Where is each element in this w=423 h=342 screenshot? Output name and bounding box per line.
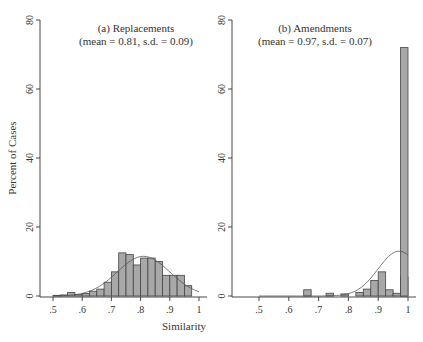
y-tick-label: 60 <box>216 84 227 94</box>
histogram-bar <box>371 280 378 296</box>
panel-a-title: (a) Replacements <box>98 22 175 35</box>
histogram-bar <box>163 275 170 296</box>
x-tick-label: .9 <box>374 304 382 315</box>
panel-b-stats: (mean = 0.97, s.d. = 0.07) <box>258 35 372 48</box>
histogram-bar <box>155 262 162 297</box>
y-tick-label: 20 <box>24 222 35 232</box>
histogram-bar <box>97 289 104 296</box>
histogram-bar <box>119 253 126 296</box>
x-tick-label: .5 <box>49 304 57 315</box>
y-tick-label: 40 <box>216 153 227 163</box>
histogram-bar <box>133 265 140 296</box>
y-tick-label: 60 <box>24 84 35 94</box>
histogram-bar <box>177 275 184 296</box>
panel-b-axes: 020406080.5.6.7.8.91 <box>216 15 416 315</box>
histogram-bar <box>104 282 111 296</box>
panel-a-axes: 020406080.5.6.7.8.91 <box>24 15 207 315</box>
panel-b-title: (b) Amendments <box>278 22 352 35</box>
histogram-bar <box>141 258 148 296</box>
y-tick-label: 0 <box>24 294 35 299</box>
y-axis-label: Percent of Cases <box>6 121 18 194</box>
panel-b-bars <box>304 48 408 296</box>
histogram-bar <box>393 293 400 296</box>
panel-amendments: (b) Amendments (mean = 0.97, s.d. = 0.07… <box>216 15 416 315</box>
x-tick-label: .8 <box>137 304 145 315</box>
histogram-bar <box>386 290 393 296</box>
panel-a-bars <box>53 253 192 296</box>
x-tick-label: .5 <box>255 304 263 315</box>
panel-a-stats: (mean = 0.81, s.d. = 0.09) <box>79 35 193 48</box>
x-tick-label: .7 <box>108 304 116 315</box>
histogram-bar <box>363 289 370 296</box>
x-tick-label: .6 <box>78 304 86 315</box>
histogram-bar <box>126 255 133 296</box>
panel-replacements: (a) Replacements (mean = 0.81, s.d. = 0.… <box>24 15 207 315</box>
histogram-bar <box>356 293 363 296</box>
histogram-bar <box>82 294 89 296</box>
histogram-bar <box>170 275 177 296</box>
y-tick-label: 0 <box>216 294 227 299</box>
histogram-bar <box>111 272 118 296</box>
histogram-bar <box>378 272 385 296</box>
x-tick-label: .6 <box>285 304 293 315</box>
histogram-bar <box>304 290 311 296</box>
x-axis-label: Similarity <box>162 320 207 332</box>
x-tick-label: .9 <box>166 304 174 315</box>
y-tick-label: 40 <box>24 153 35 163</box>
x-tick-label: 1 <box>197 304 202 315</box>
x-tick-label: .8 <box>345 304 353 315</box>
histogram-bar <box>401 48 408 296</box>
histogram-figure: Percent of Cases Similarity (a) Replacem… <box>0 0 423 342</box>
histogram-bar <box>184 286 191 296</box>
y-tick-label: 80 <box>216 15 227 25</box>
x-tick-label: 1 <box>406 304 411 315</box>
y-tick-label: 20 <box>216 222 227 232</box>
histogram-bar <box>148 258 155 296</box>
x-tick-label: .7 <box>315 304 323 315</box>
y-tick-label: 80 <box>24 15 35 25</box>
histogram-bar <box>90 291 97 296</box>
